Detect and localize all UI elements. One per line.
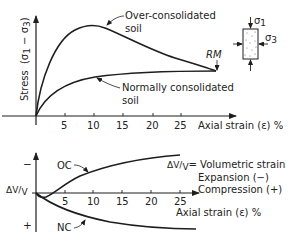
legend-volumetric-definition: ΔV/V= Volumetric strain bbox=[167, 159, 285, 172]
oc-leader-line bbox=[107, 16, 124, 25]
upper-tick-10: 10 bbox=[87, 120, 100, 131]
lower-tick-25: 25 bbox=[174, 196, 187, 207]
oc-volumetric-label: OC bbox=[57, 160, 72, 171]
lower-tick-10: 10 bbox=[87, 196, 100, 207]
compression-sign: + bbox=[23, 219, 32, 231]
upper-tick-20: 20 bbox=[146, 120, 159, 131]
lower-tick-20: 20 bbox=[145, 196, 158, 207]
oc-volumetric-leader bbox=[74, 165, 88, 172]
nc-label-line1: Normally consolidated bbox=[122, 82, 234, 93]
upper-tick-5: 5 bbox=[61, 120, 67, 131]
lower-tick-15: 15 bbox=[116, 196, 129, 207]
expansion-sign: − bbox=[23, 158, 32, 170]
rm-label: RM bbox=[206, 49, 222, 60]
nc-volumetric-leader bbox=[74, 220, 85, 228]
upper-y-axis-label: Stress (σ1 − σ3) bbox=[19, 17, 32, 101]
upper-x-axis-label: Axial strain (ε) % bbox=[198, 120, 283, 131]
legend-expansion: Expansion (−) bbox=[198, 172, 269, 183]
lower-tick-5: 5 bbox=[62, 196, 68, 207]
oc-label-line1: Over-consolidated bbox=[125, 10, 216, 21]
nc-label-line2: soil bbox=[122, 95, 139, 106]
upper-tick-15: 15 bbox=[116, 120, 129, 131]
oc-label-line2: soil bbox=[125, 23, 142, 34]
nc-volumetric-label: NC bbox=[57, 222, 71, 233]
upper-plot: 5 10 15 20 25 Axial strain (ε) % Stress … bbox=[2, 10, 283, 131]
nc-leader-line bbox=[97, 78, 120, 88]
sigma1-label: σ1 bbox=[254, 15, 266, 28]
legend-compression: Compression (+) bbox=[198, 184, 282, 195]
soil-behaviour-diagram: 5 10 15 20 25 Axial strain (ε) % Stress … bbox=[0, 0, 299, 244]
svg-text:Stress (σ1 − σ3): Stress (σ1 − σ3) bbox=[19, 17, 32, 101]
triaxial-specimen-icon: σ1 σ3 bbox=[233, 15, 277, 71]
normally-consolidated-curve bbox=[36, 71, 216, 116]
volumetric-strain-symbol: ΔV/V bbox=[6, 185, 28, 197]
upper-tick-25: 25 bbox=[174, 120, 187, 131]
sigma3-label: σ3 bbox=[265, 32, 277, 45]
lower-plot: 5 10 15 20 25 Axial strain (ε) % − + ΔV/… bbox=[6, 153, 285, 233]
lower-x-axis-label: Axial strain (ε) % bbox=[176, 207, 261, 218]
